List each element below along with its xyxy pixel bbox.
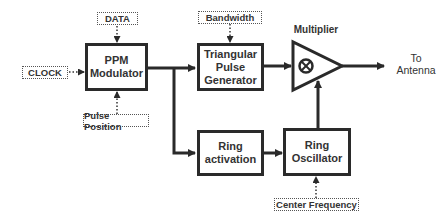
- center-frequency-label: Center Frequency: [276, 199, 357, 210]
- ring-activation-block: Ring activation: [197, 130, 264, 176]
- center-frequency-input: Center Frequency: [274, 198, 359, 211]
- ring-activation-label: Ring activation: [205, 140, 256, 166]
- ppm-modulator-label: PPM Modulator: [90, 54, 143, 80]
- data-label: DATA: [105, 13, 130, 24]
- pulse-position-input: Pulse Position: [83, 114, 149, 127]
- to-antenna-label: To Antenna: [386, 52, 446, 76]
- ppm-modulator-block: PPM Modulator: [85, 43, 148, 91]
- pulse-position-label: Pulse Position: [84, 110, 148, 132]
- triangular-pulse-generator-label: Triangular Pulse Generator: [204, 48, 257, 87]
- bandwidth-input: Bandwidth: [198, 11, 262, 24]
- clock-input: CLOCK: [22, 66, 68, 79]
- connections-layer: [0, 0, 446, 223]
- ring-oscillator-label: Ring Oscillator: [292, 139, 343, 165]
- ring-oscillator-block: Ring Oscillator: [283, 128, 351, 176]
- triangular-pulse-generator-block: Triangular Pulse Generator: [197, 43, 264, 91]
- clock-label: CLOCK: [28, 67, 62, 78]
- ppm-to-ring-activation-arrow: [174, 68, 195, 153]
- multiplier-label: Multiplier: [288, 24, 344, 36]
- data-input: DATA: [97, 12, 138, 25]
- bandwidth-label: Bandwidth: [206, 12, 255, 23]
